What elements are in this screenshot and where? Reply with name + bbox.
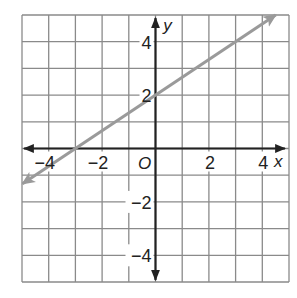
y-axis-label: y xyxy=(162,16,173,35)
x-axis-label: x xyxy=(273,152,283,171)
x-tick-label: −2 xyxy=(88,153,109,173)
coordinate-plane: −4−22442−2−4Oxy xyxy=(0,0,297,298)
x-tick-label: 4 xyxy=(258,153,268,173)
y-tick-label: −4 xyxy=(131,246,152,266)
y-tick-label: −2 xyxy=(131,193,152,213)
y-tick-label: 4 xyxy=(141,33,151,53)
y-tick-label: 2 xyxy=(141,86,151,106)
x-tick-label: −4 xyxy=(34,153,55,173)
axes xyxy=(24,18,285,280)
origin-label: O xyxy=(138,154,151,173)
x-tick-label: 2 xyxy=(205,153,215,173)
